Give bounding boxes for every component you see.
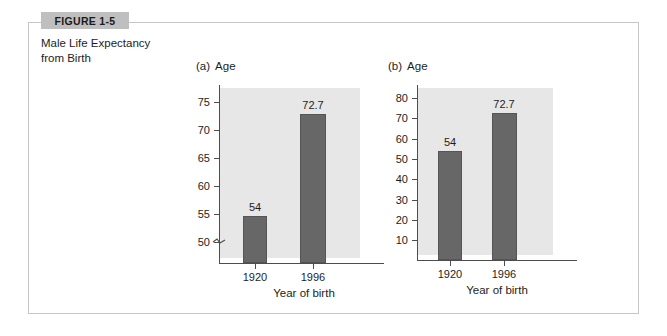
chart-b-axis-title: Age <box>407 60 427 72</box>
chart-b-bar-1996 <box>492 113 517 260</box>
chart-b-tick-50 <box>412 159 418 160</box>
chart-a-ytick-label-65: 65 <box>192 153 210 164</box>
chart-a-xtick-label-1996: 1996 <box>293 272 333 283</box>
chart-a-value-label-1996: 72.7 <box>293 100 333 111</box>
chart-b-bar-1920 <box>438 151 462 260</box>
chart-b-panel-label: (b) <box>388 60 402 72</box>
chart-a-x-axis-line <box>219 263 384 264</box>
chart-b-tick-30 <box>412 200 418 201</box>
chart-b-tick-10 <box>412 240 418 241</box>
chart-a-xtick-1996 <box>313 264 314 269</box>
chart-b-ytick-label-30: 30 <box>388 195 408 206</box>
chart-b-ytick-label-50: 50 <box>388 154 408 165</box>
chart-a-tick-55 <box>214 214 220 215</box>
chart-b-ytick-label-60: 60 <box>388 134 408 145</box>
chart-b-tick-70 <box>412 118 418 119</box>
chart-panel-b: (b)Age 80 70 60 50 40 30 20 10 54 72.7 1… <box>388 60 428 88</box>
chart-b-tick-20 <box>412 220 418 221</box>
figure-number-label: FIGURE 1-5 <box>55 15 116 27</box>
chart-b-y-axis-line <box>417 85 418 260</box>
chart-b-value-label-1920: 54 <box>430 137 470 148</box>
chart-a-ytick-label-55: 55 <box>192 209 210 220</box>
chart-a-axis-title: Age <box>215 60 235 72</box>
chart-b-xaxis-title: Year of birth <box>417 285 577 297</box>
chart-a-tick-60 <box>214 186 220 187</box>
chart-a-heading: (a)Age <box>196 60 236 72</box>
chart-a-ytick-label-60: 60 <box>192 181 210 192</box>
figure-caption: Male Life Expectancy from Birth <box>41 36 191 66</box>
chart-b-ytick-label-10: 10 <box>388 235 408 246</box>
chart-a-xtick-label-1920: 1920 <box>235 272 275 283</box>
chart-a-panel-label: (a) <box>196 60 210 72</box>
figure-number-banner: FIGURE 1-5 <box>41 12 129 29</box>
chart-a-ytick-label-50: 50 <box>192 237 210 248</box>
figure-caption-line-2: from Birth <box>41 51 191 66</box>
chart-b-x-axis-line <box>417 260 577 261</box>
chart-a-bar-1996 <box>300 114 326 263</box>
chart-a-plot-area <box>220 88 360 258</box>
chart-a-ytick-label-75: 75 <box>192 97 210 108</box>
chart-a-xtick-1920 <box>255 264 256 269</box>
chart-a-ytick-label-70: 70 <box>192 125 210 136</box>
chart-a-bar-1920 <box>243 216 267 263</box>
chart-b-tick-80 <box>412 98 418 99</box>
chart-panel-a: (a)Age 75 70 65 60 55 50 54 72.7 1920 19… <box>196 60 236 88</box>
chart-a-tick-70 <box>214 130 220 131</box>
chart-b-xtick-label-1996: 1996 <box>484 269 524 280</box>
figure-caption-line-1: Male Life Expectancy <box>41 36 191 51</box>
chart-b-xtick-label-1920: 1920 <box>430 269 470 280</box>
chart-b-tick-40 <box>412 179 418 180</box>
axis-break-icon <box>212 234 226 246</box>
chart-b-xtick-1996 <box>504 261 505 266</box>
chart-a-xaxis-title: Year of birth <box>224 288 384 300</box>
chart-b-ytick-label-70: 70 <box>388 113 408 124</box>
chart-b-heading: (b)Age <box>388 60 428 72</box>
chart-b-tick-60 <box>412 139 418 140</box>
chart-b-ytick-label-20: 20 <box>388 215 408 226</box>
chart-a-value-label-1920: 54 <box>235 202 275 213</box>
chart-a-tick-65 <box>214 158 220 159</box>
chart-a-tick-75 <box>214 102 220 103</box>
chart-b-value-label-1996: 72.7 <box>484 99 524 110</box>
chart-b-ytick-label-80: 80 <box>388 93 408 104</box>
chart-b-xtick-1920 <box>450 261 451 266</box>
chart-b-ytick-label-40: 40 <box>388 174 408 185</box>
